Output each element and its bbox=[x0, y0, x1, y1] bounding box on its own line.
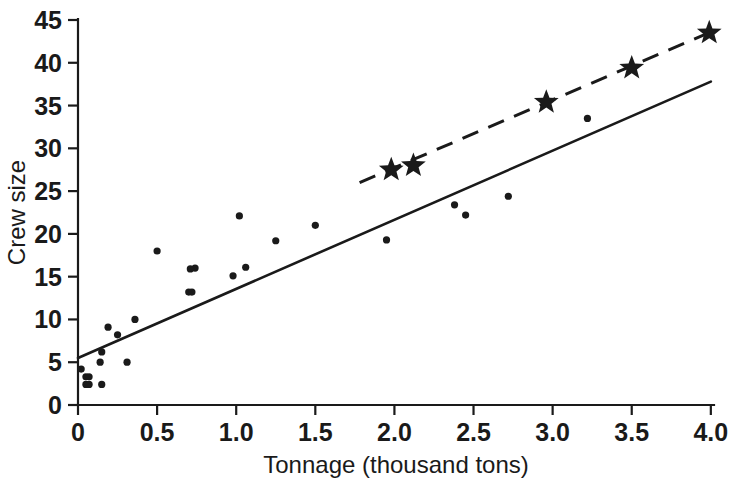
solid-regression-line bbox=[78, 82, 711, 358]
scatter-point bbox=[123, 359, 130, 366]
scatter-point bbox=[242, 264, 249, 271]
scatter-point bbox=[114, 331, 121, 338]
y-tick-label-5: 5 bbox=[48, 348, 62, 376]
axes bbox=[68, 19, 714, 415]
scatter-point bbox=[154, 247, 161, 254]
star-point bbox=[619, 55, 644, 79]
scatter-point bbox=[462, 211, 469, 218]
scatter-point bbox=[584, 115, 591, 122]
y-tick-label-30: 30 bbox=[34, 134, 62, 162]
x-tick-label-2.5: 2.5 bbox=[456, 418, 491, 446]
x-tick-label-1.0: 1.0 bbox=[219, 418, 254, 446]
scatter-point bbox=[383, 236, 390, 243]
x-axis-title: Tonnage (thousand tons) bbox=[263, 451, 529, 478]
scatter-point bbox=[85, 373, 92, 380]
x-tick-label-3.0: 3.0 bbox=[535, 418, 570, 446]
y-tick-label-35: 35 bbox=[34, 92, 62, 120]
scatter-plot-figure: 05101520253035404500.51.01.52.02.53.03.5… bbox=[0, 0, 745, 480]
star-point bbox=[379, 157, 404, 181]
axis-labels: 05101520253035404500.51.01.52.02.53.03.5… bbox=[3, 6, 728, 478]
x-tick-label-3.5: 3.5 bbox=[614, 418, 649, 446]
x-tick-label-0.5: 0.5 bbox=[140, 418, 175, 446]
scatter-point bbox=[188, 288, 195, 295]
scatter-point bbox=[85, 381, 92, 388]
y-tick-label-25: 25 bbox=[34, 177, 62, 205]
scatter-point bbox=[104, 324, 111, 331]
y-axis-title: Crew size bbox=[3, 160, 30, 265]
y-tick-label-45: 45 bbox=[34, 6, 62, 34]
axis-spine bbox=[78, 19, 714, 405]
y-tick-label-20: 20 bbox=[34, 220, 62, 248]
y-tick-label-40: 40 bbox=[34, 49, 62, 77]
scatter-point bbox=[312, 222, 319, 229]
scatter-point bbox=[98, 348, 105, 355]
y-tick-label-10: 10 bbox=[34, 305, 62, 333]
scatter-point bbox=[78, 365, 85, 372]
scatter-point bbox=[451, 201, 458, 208]
scatter-point bbox=[187, 265, 194, 272]
x-tick-label-0: 0 bbox=[71, 418, 85, 446]
scatter-point bbox=[229, 272, 236, 279]
x-tick-label-1.5: 1.5 bbox=[298, 418, 333, 446]
scatter-point bbox=[236, 212, 243, 219]
scatter-point bbox=[131, 316, 138, 323]
scatter-point bbox=[97, 359, 104, 366]
scatter-point bbox=[98, 381, 105, 388]
data-points-dots bbox=[78, 115, 591, 388]
x-tick-label-4.0: 4.0 bbox=[693, 418, 728, 446]
trend-lines bbox=[78, 32, 711, 358]
scatter-point bbox=[272, 237, 279, 244]
y-tick-label-15: 15 bbox=[34, 263, 62, 291]
scatter-point bbox=[505, 193, 512, 200]
x-tick-label-2.0: 2.0 bbox=[377, 418, 412, 446]
chart-canvas: 05101520253035404500.51.01.52.02.53.03.5… bbox=[0, 0, 745, 480]
y-tick-label-0: 0 bbox=[48, 391, 62, 419]
star-point bbox=[697, 20, 722, 44]
star-point bbox=[534, 89, 559, 113]
